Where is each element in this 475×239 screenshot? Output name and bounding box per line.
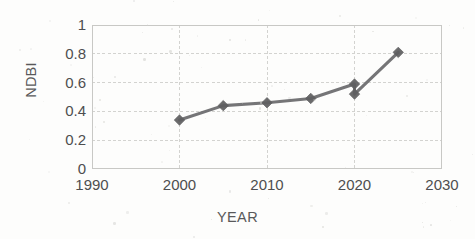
y-tick-label: 0.8 xyxy=(40,46,86,61)
paper-speckle xyxy=(193,236,195,238)
paper-speckle xyxy=(258,19,259,20)
paper-speckle xyxy=(425,202,426,203)
x-tick-label: 2020 xyxy=(325,177,385,192)
paper-speckle xyxy=(269,10,270,11)
x-tick-label: 2030 xyxy=(412,177,472,192)
paper-speckle xyxy=(456,206,457,207)
paper-speckle xyxy=(339,15,341,17)
y-tick-label: 0.6 xyxy=(40,75,86,90)
paper-speckle xyxy=(19,49,21,51)
x-axis-title: YEAR xyxy=(0,209,475,225)
y-tick-label: 0.2 xyxy=(40,132,86,147)
paper-speckle xyxy=(133,0,135,2)
paper-speckle xyxy=(411,171,413,173)
plot-area xyxy=(92,25,442,169)
x-tick-label: 2000 xyxy=(150,177,210,192)
data-point-marker[interactable] xyxy=(349,79,359,89)
data-point-marker[interactable] xyxy=(174,115,184,125)
y-axis-tick-labels: 00.20.40.60.81 xyxy=(36,0,86,239)
x-tick-label: 1990 xyxy=(62,177,122,192)
plot-svg xyxy=(92,25,442,169)
paper-speckle xyxy=(173,1,174,2)
data-point-marker[interactable] xyxy=(262,98,272,108)
data-point-marker[interactable] xyxy=(306,93,316,103)
y-tick-label: 0 xyxy=(40,161,86,176)
paper-speckle xyxy=(449,25,450,26)
paper-speckle xyxy=(322,226,324,228)
paper-speckle xyxy=(423,226,425,228)
ndbi-year-line-chart: NDBI 00.20.40.60.81 19902000201020202030… xyxy=(0,0,475,239)
paper-speckle xyxy=(413,172,415,174)
paper-speckle xyxy=(422,203,424,205)
paper-speckle xyxy=(29,139,30,140)
y-tick-label: 1 xyxy=(40,17,86,32)
paper-speckle xyxy=(463,27,464,28)
y-tick-label: 0.4 xyxy=(40,103,86,118)
paper-speckle xyxy=(310,205,312,207)
paper-speckle xyxy=(472,154,474,156)
paper-speckle xyxy=(415,17,417,19)
x-tick-label: 2010 xyxy=(237,177,297,192)
data-point-marker[interactable] xyxy=(218,100,228,110)
x-axis-tick-labels: 19902000201020202030 xyxy=(0,177,475,201)
data-line-ndbi xyxy=(180,52,399,120)
